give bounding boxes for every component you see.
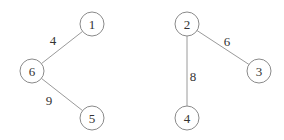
node-label: 6 [29,64,36,79]
node-6: 6 [20,59,44,83]
edges-layer [41,31,249,111]
edge-weight-label: 8 [190,69,197,84]
node-label: 3 [256,64,263,79]
node-4: 4 [175,106,199,130]
edge-labels-layer: 4968 [46,33,231,108]
nodes-layer: 165234 [20,12,271,130]
node-label: 4 [184,111,191,126]
edge-weight-label: 6 [224,34,231,49]
node-label: 1 [89,17,96,32]
node-3: 3 [247,59,271,83]
edge-weight-label: 4 [50,33,57,48]
node-5: 5 [80,106,104,130]
graph-diagram: 4968 165234 [0,0,284,140]
node-label: 2 [184,17,191,32]
edge-1-6 [41,31,82,63]
edge-line [41,31,82,63]
edge-weight-label: 9 [46,93,53,108]
node-1: 1 [80,12,104,36]
node-label: 5 [89,111,96,126]
node-2: 2 [175,12,199,36]
